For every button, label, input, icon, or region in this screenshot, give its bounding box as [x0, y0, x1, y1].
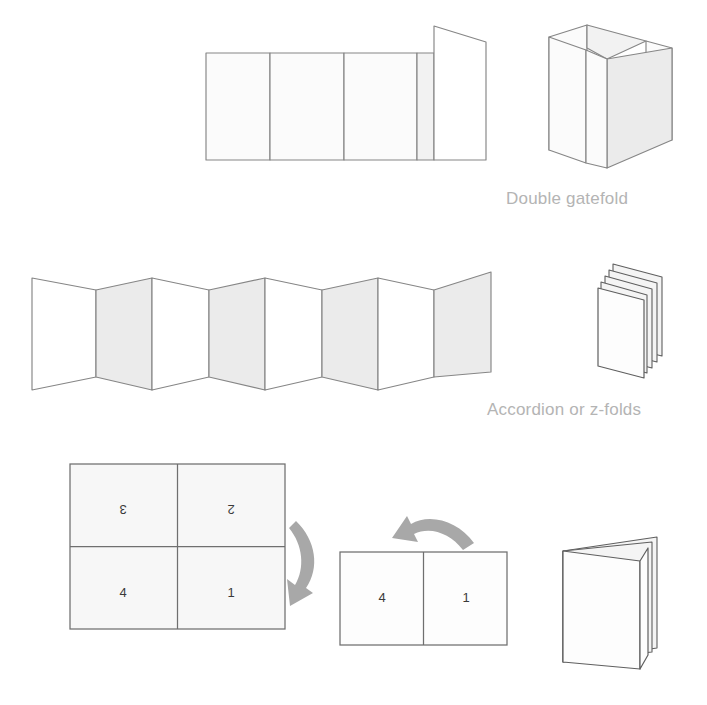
quarter-fold-booklet [563, 537, 657, 669]
accordion-booklet-cover [598, 288, 644, 378]
gatefold-3d-front-left [586, 50, 607, 168]
accordion-booklet [598, 264, 662, 378]
double-gatefold-flat [206, 26, 486, 160]
accordion-panel-7 [378, 278, 434, 390]
accordion-panel-4 [209, 278, 265, 390]
caption-accordion: Accordion or z-folds [487, 400, 641, 419]
accordion-zigzag [32, 272, 491, 390]
quarter-number-top-left: 3 [119, 502, 126, 517]
caption-double-gatefold: Double gatefold [506, 189, 628, 208]
fold-diagram-canvas: Double gatefold Accordion or z-folds [0, 0, 707, 705]
gatefold-panel-4 [417, 53, 434, 160]
gatefold-panel-2 [270, 53, 344, 160]
gatefold-panel-3 [344, 53, 417, 160]
accordion-panel-1 [32, 278, 96, 390]
gatefold-panel-1 [206, 53, 270, 160]
quarter-booklet-left-page [563, 551, 640, 669]
fold-types-diagram: Double gatefold Accordion or z-folds [0, 0, 707, 705]
gatefold-3d-left-wall [549, 37, 586, 163]
accordion-panel-8 [434, 272, 491, 377]
quarter-number-bottom-right: 1 [227, 585, 234, 600]
fold-left-arrow-shape [392, 516, 474, 550]
half-sheet-number-right: 1 [462, 590, 469, 605]
accordion-panel-2 [96, 278, 152, 390]
accordion-panel-6 [322, 278, 378, 390]
gatefold-3d-front-right [607, 48, 672, 168]
fold-left-arrow [392, 516, 474, 550]
quarter-fold-sheet: 3 2 4 1 [70, 464, 285, 629]
gatefold-open-flap [434, 26, 486, 160]
fold-down-arrow [287, 521, 314, 606]
quarter-booklet-right-page [640, 548, 648, 669]
accordion-panel-5 [265, 278, 322, 390]
half-sheet-number-left: 4 [378, 590, 385, 605]
accordion-panel-3 [152, 278, 209, 390]
quarter-number-bottom-left: 4 [119, 585, 126, 600]
double-gatefold-assembled [549, 25, 672, 168]
fold-down-arrow-shape [287, 521, 314, 606]
half-sheet: 4 1 [340, 552, 507, 645]
quarter-number-top-right: 2 [227, 502, 234, 517]
